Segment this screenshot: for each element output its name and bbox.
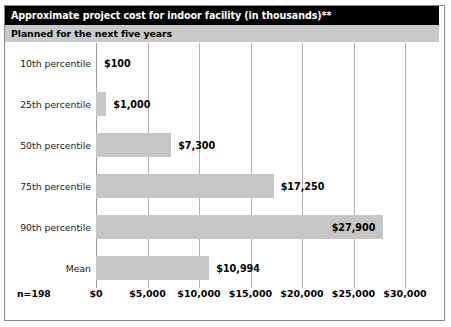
bar-value-label: $10,994: [216, 262, 260, 273]
bar: [96, 133, 171, 157]
x-tick-label: $30,000: [383, 288, 426, 299]
chart-row: 25th percentile$1,000: [5, 84, 445, 125]
chart-title-bar: Approximate project cost for indoor faci…: [5, 6, 439, 25]
bar-value-label: $100: [104, 58, 131, 69]
x-tick-label: $10,000: [177, 288, 220, 299]
chart-figure: Approximate project cost for indoor faci…: [0, 0, 451, 327]
chart-subtitle: Planned for the next five years: [5, 28, 172, 39]
x-tick-label: $20,000: [280, 288, 323, 299]
chart-row: 10th percentile$100: [5, 43, 445, 84]
chart-row: Mean$10,994: [5, 247, 445, 288]
bar: [96, 256, 209, 280]
bar: [96, 174, 274, 198]
sample-size-note: n=198: [17, 288, 51, 299]
category-label: 90th percentile: [5, 221, 91, 232]
chart-row: 50th percentile$7,300: [5, 125, 445, 166]
chart-row: 75th percentile$17,250: [5, 166, 445, 207]
plot-area: 10th percentile$10025th percentile$1,000…: [5, 43, 445, 288]
bar-value-label: $27,900: [332, 221, 376, 232]
x-tick-label: $25,000: [332, 288, 375, 299]
bar-value-label: $17,250: [281, 180, 325, 191]
category-label: 50th percentile: [5, 140, 91, 151]
bar-value-label: $7,300: [178, 140, 215, 151]
category-label: 10th percentile: [5, 58, 91, 69]
category-label: 25th percentile: [5, 99, 91, 110]
x-tick-label: $0: [89, 288, 102, 299]
bar: [96, 92, 106, 116]
x-axis: $0$5,000$10,000$15,000$20,000$25,000$30,…: [5, 288, 445, 304]
category-label: Mean: [5, 262, 91, 273]
category-label: 75th percentile: [5, 180, 91, 191]
chart-title: Approximate project cost for indoor faci…: [5, 10, 331, 21]
bar-value-label: $1,000: [113, 99, 150, 110]
x-tick-label: $5,000: [129, 288, 166, 299]
x-tick-label: $15,000: [229, 288, 272, 299]
chart-subtitle-bar: Planned for the next five years: [5, 25, 439, 42]
chart-row: 90th percentile$27,900: [5, 206, 445, 247]
